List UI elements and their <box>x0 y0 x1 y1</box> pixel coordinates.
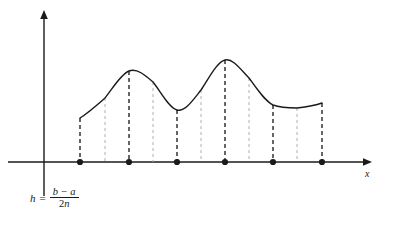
x-axis-label: x <box>365 168 369 179</box>
node-dot-x4 <box>174 159 180 165</box>
node-dot-x8 <box>270 159 276 165</box>
figure-root: x h = b − a 2n <box>0 0 393 226</box>
formula-denominator-variable: n <box>64 198 69 209</box>
node-dot-x6 <box>222 159 228 165</box>
formula-numerator: b − a <box>50 186 79 197</box>
formula-equals: = <box>39 192 47 204</box>
node-dot-x0 <box>77 159 83 165</box>
formula-lhs: h <box>30 192 36 204</box>
node-dot-x10 <box>319 159 325 165</box>
x-axis-arrowhead <box>363 158 372 166</box>
step-size-formula: h = b − a 2n <box>30 186 79 209</box>
formula-fraction: b − a 2n <box>50 186 79 209</box>
y-axis-arrowhead <box>40 10 48 19</box>
node-dot-x2 <box>126 159 132 165</box>
formula-denominator: 2n <box>56 198 73 209</box>
